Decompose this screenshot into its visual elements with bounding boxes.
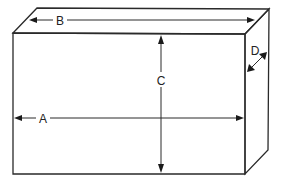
label-b: B: [56, 14, 64, 28]
arrowhead-a-right: [236, 115, 244, 121]
label-c: C: [157, 74, 166, 88]
label-a: A: [39, 112, 47, 126]
arrowhead-c-bottom: [158, 164, 164, 173]
box-diagram: B A C D: [0, 0, 285, 188]
arrowhead-b-right: [247, 17, 255, 23]
arrowhead-b-left: [29, 17, 37, 23]
label-d: D: [251, 44, 260, 58]
dimension-c: C: [154, 35, 168, 173]
front-face: [13, 33, 245, 174]
dimension-b: B: [29, 13, 255, 28]
dimension-d: D: [247, 44, 267, 72]
arrowhead-a-left: [14, 115, 22, 121]
side-face: [245, 9, 269, 174]
box-outline: [13, 8, 269, 174]
dimension-a: A: [14, 111, 244, 126]
arrowhead-c-top: [158, 35, 164, 44]
top-face: [13, 8, 269, 34]
